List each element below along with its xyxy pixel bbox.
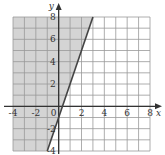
y-tick-label: 8	[50, 12, 56, 22]
y-axis-label: y	[48, 1, 55, 11]
x-tick-label: -4	[9, 108, 18, 118]
x-tick-label: 4	[101, 108, 107, 118]
x-tick-label: 2	[79, 108, 85, 118]
y-tick-label: 6	[50, 34, 56, 44]
x-tick-label: 6	[124, 108, 130, 118]
y-axis-arrow-icon	[56, 3, 62, 10]
x-tick-label: 8	[147, 108, 153, 118]
inequality-graph: -4-202468-4-22468 x y	[0, 0, 165, 155]
x-axis-label: x	[156, 108, 161, 118]
y-tick-label: 2	[50, 79, 56, 89]
y-tick-label: -2	[47, 124, 56, 134]
y-tick-label: 4	[50, 57, 56, 67]
x-tick-label: 0	[51, 108, 57, 118]
y-tick-label: -4	[47, 146, 56, 155]
x-tick-label: -2	[31, 108, 40, 118]
